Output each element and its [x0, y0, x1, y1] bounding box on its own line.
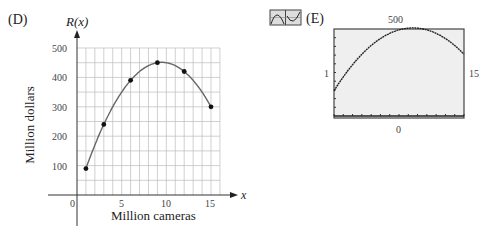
- y-tick-300: 300: [52, 102, 67, 113]
- y-axis-arrow-icon: [74, 30, 80, 38]
- window-right: 15: [469, 68, 479, 79]
- window-left: 1: [324, 68, 329, 79]
- graphing-calculator-icon: [270, 10, 301, 25]
- y-tick-500: 500: [52, 43, 67, 54]
- y-axis-label: Million dollars: [22, 70, 38, 180]
- y-tick-200: 200: [52, 131, 67, 142]
- x-axis-symbol: x: [241, 188, 246, 203]
- y-tick-400: 400: [52, 72, 67, 83]
- x-axis-label: Million cameras: [111, 208, 196, 224]
- x-axis-arrow-icon: [230, 192, 238, 198]
- calculator-screen: [334, 29, 464, 118]
- x-tick-15: 15: [205, 198, 215, 209]
- window-bottom: 0: [396, 124, 401, 135]
- x-tick-0: 0: [70, 198, 75, 209]
- window-top: 500: [388, 14, 403, 25]
- y-tick-100: 100: [52, 161, 67, 172]
- y-axis-label-wrap: Million dollars: [20, 72, 40, 182]
- panel-e-label: (E): [306, 11, 324, 27]
